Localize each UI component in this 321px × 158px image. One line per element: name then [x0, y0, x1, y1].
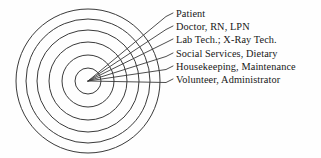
label-text-4: Housekeeping, Maintenance	[176, 60, 321, 73]
label-list: PatientDoctor, RN, LPNLab Tech.; X-Ray T…	[176, 7, 321, 86]
label-text-2: Lab Tech.; X-Ray Tech.	[176, 33, 321, 46]
label-text-0: Patient	[176, 7, 321, 20]
label-text-5: Volunteer, Administrator	[176, 73, 321, 86]
label-text-1: Doctor, RN, LPN	[176, 20, 321, 33]
label-text-3: Social Services, Dietary	[176, 47, 321, 60]
figure-root: PatientDoctor, RN, LPNLab Tech.; X-Ray T…	[0, 0, 321, 158]
